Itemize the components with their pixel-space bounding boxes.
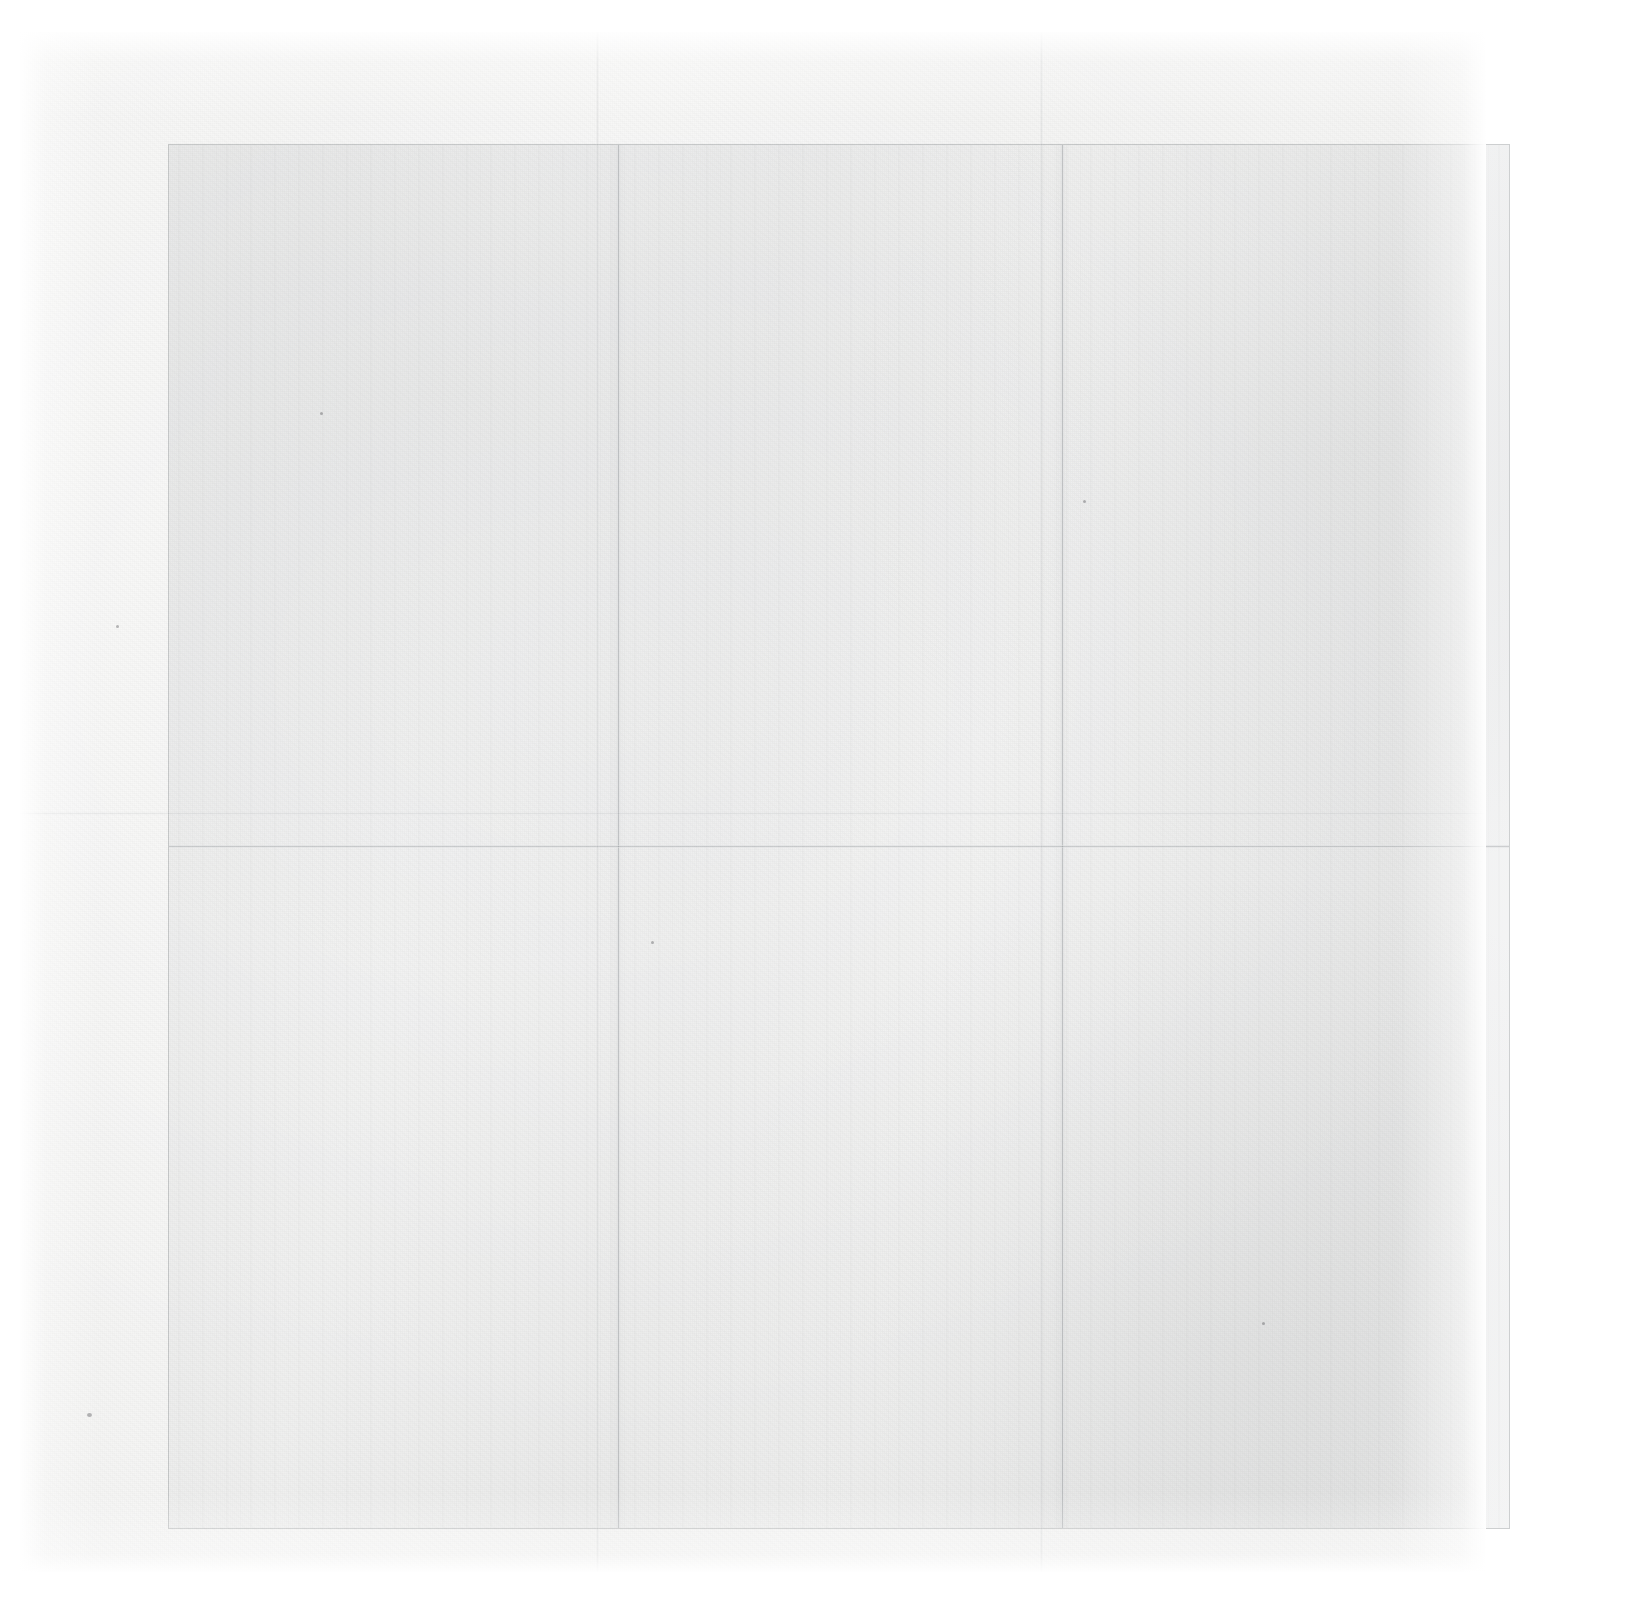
fold-vertical-right: [1061, 145, 1064, 1528]
content-area-border: [168, 144, 1510, 1529]
content-area-tint: [169, 145, 1509, 1528]
speck-mid-left: [116, 625, 119, 628]
fold-horizontal-middle: [169, 845, 1509, 848]
speck-bottom-left: [87, 1413, 92, 1417]
content-area-scan-streaks: [169, 145, 1509, 1528]
scanned-page-viewport: [0, 0, 1627, 1609]
fold-vertical-left: [617, 145, 620, 1528]
fold-vertical-left-shadow: [609, 145, 625, 1528]
fold-vertical-right-shadow: [1053, 145, 1069, 1528]
paper-sheet: [20, 32, 1486, 1572]
